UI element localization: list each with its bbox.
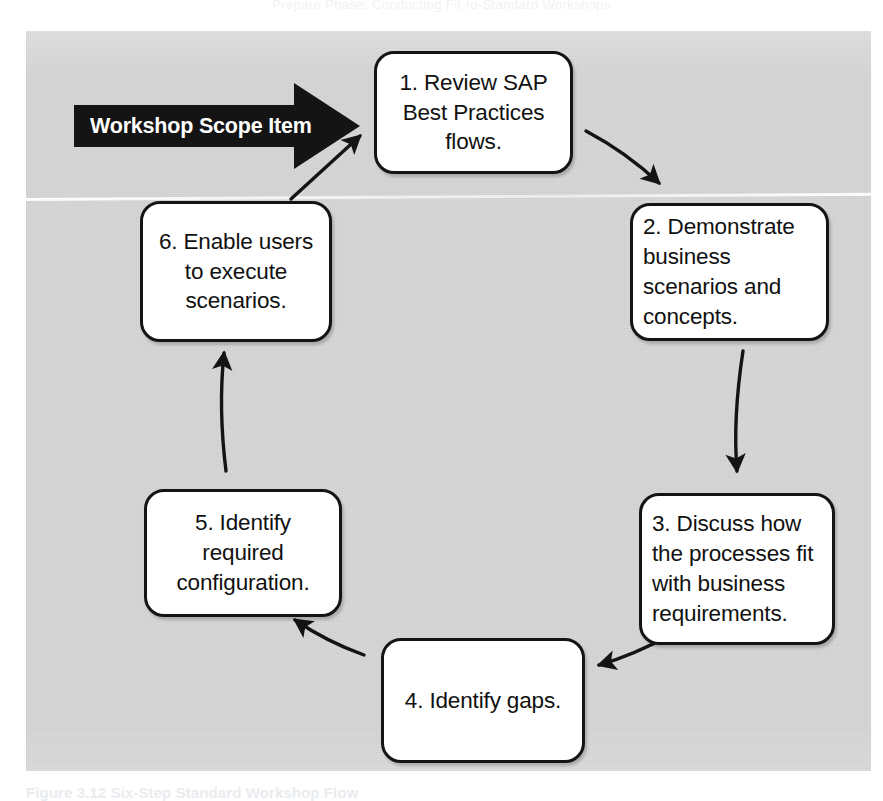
- connector-5-to-6: [222, 353, 226, 471]
- workshop-scope-item-label: Workshop Scope Item: [90, 107, 304, 145]
- node-label-step-3: 3. Discuss how the processes fit with bu…: [642, 509, 832, 629]
- scan-seam-artifact: [26, 193, 871, 201]
- node-label-step-1: 1. Review SAP Best Practices flows.: [377, 68, 570, 158]
- diagram-node-step-2: 2. Demonstrate business scenarios and co…: [630, 203, 829, 341]
- figure-caption-text: Figure 3.12 Six-Step Standard Workshop F…: [26, 784, 358, 801]
- diagram-node-step-5: 5. Identify required configuration.: [144, 489, 342, 617]
- node-label-step-5: 5. Identify required configuration.: [147, 508, 339, 598]
- diagram-node-step-6: 6. Enable users to execute scenarios.: [140, 201, 332, 342]
- diagram-node-step-4: 4. Identify gaps.: [381, 638, 585, 763]
- connector-2-to-3: [736, 351, 743, 471]
- connector-4-to-5: [295, 620, 364, 655]
- running-head: Prepare Phase: Conducting Fit-to-Standar…: [0, 0, 883, 12]
- figure-page: Prepare Phase: Conducting Fit-to-Standar…: [0, 0, 883, 801]
- figure-plate: Workshop Scope Item 1. Review SAP Best P…: [26, 31, 871, 771]
- node-label-step-4: 4. Identify gaps.: [395, 686, 571, 716]
- connector-1-to-2: [586, 131, 659, 183]
- diagram-node-step-1: 1. Review SAP Best Practices flows.: [374, 51, 573, 174]
- diagram-node-step-3: 3. Discuss how the processes fit with bu…: [639, 493, 835, 645]
- node-label-step-6: 6. Enable users to execute scenarios.: [143, 227, 329, 317]
- node-label-step-2: 2. Demonstrate business scenarios and co…: [633, 212, 826, 332]
- figure-caption: Figure 3.12 Six-Step Standard Workshop F…: [26, 783, 726, 801]
- workshop-scope-item-arrow: Workshop Scope Item: [72, 79, 362, 173]
